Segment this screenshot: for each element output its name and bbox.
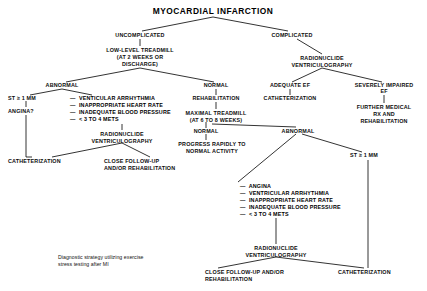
node-radionuclide-ventriculography-left-line2: VENTRICULOGRAPHY: [92, 138, 153, 145]
node-low-level-treadmill-line2: (AT 2 WEEKS OR: [117, 54, 163, 61]
node-catheterization-left: CATHETERIZATION: [8, 158, 61, 165]
node-catheterization-adequate-ef: CATHETERIZATION: [264, 95, 317, 102]
node-further-medical-line1: FURTHER MEDICAL: [357, 104, 412, 111]
node-close-followup-bottom-line1: CLOSE FOLLOW-UP AND/OR: [205, 269, 284, 276]
page-title: MYOCARDIAL INFARCTION: [153, 6, 274, 16]
node-low-level-treadmill-line1: LOW-LEVEL TREADMILL: [106, 47, 174, 54]
node-radionuclide-ventriculography-top-line2: VENTRICULOGRAPHY: [292, 62, 353, 69]
flowchart-diagram: MYOCARDIAL INFARCTION UNCOMPLICATED COMP…: [0, 0, 427, 291]
node-radionuclide-ventriculography-top-line1: RADIONUCLIDE: [300, 55, 344, 62]
node-close-followup-bottom-line2: REHABILITATION: [205, 276, 252, 283]
node-severely-impaired-ef-line2: EF: [380, 88, 387, 95]
node-progress-rapidly-line2: NORMAL ACTIVITY: [186, 148, 238, 155]
node-normal-middle: NORMAL: [204, 82, 229, 89]
node-st-elevation-right: ST ≥ 1 MM: [350, 152, 378, 159]
node-further-medical-line3: REHABILITATION: [360, 118, 407, 125]
node-maximal-treadmill-line1: MAXIMAL TREADMILL: [186, 110, 247, 117]
node-close-followup-left-line1: CLOSE FOLLOW-UP: [104, 158, 159, 165]
node-low-level-treadmill-line3: DISCHARGE): [122, 61, 158, 68]
node-radionuclide-ventriculography-left-line1: RADIONUCLIDE: [100, 131, 144, 138]
criteria-list-lower: — ANGINA — VENTRICULAR ARRHYTHMIA — INAP…: [240, 183, 341, 218]
node-complicated: COMPLICATED: [271, 32, 312, 39]
node-rehabilitation: REHABILITATION: [192, 95, 239, 102]
node-uncomplicated: UNCOMPLICATED: [115, 32, 164, 39]
node-close-followup-left-line2: AND/OR REHABILITATION: [104, 165, 175, 172]
node-radionuclide-ventriculography-bottom-line2: VENTRICULOGRAPHY: [246, 252, 307, 259]
node-adequate-ef: ADEQUATE EF: [270, 82, 310, 89]
node-catheterization-bottom: CATHETERIZATION: [338, 269, 391, 276]
node-maximal-treadmill-line2: (AT 6 TO 8 WEEKS): [190, 117, 243, 124]
node-further-medical-line2: RX AND: [373, 111, 395, 118]
node-angina-question: ANGINA?: [8, 108, 34, 115]
node-progress-rapidly-line1: PROGRESS RAPIDLY TO: [178, 141, 245, 148]
node-normal-lower: NORMAL: [194, 128, 219, 135]
criteria-list-upper: — VENTICULAR ARRHYTHMIA — INAPPROPRIATE …: [70, 95, 171, 123]
node-abnormal-right: ABNORMAL: [282, 128, 315, 135]
node-abnormal-left: ABNORMAL: [46, 82, 79, 89]
node-radionuclide-ventriculography-bottom-line1: RADIONUCLIDE: [254, 245, 298, 252]
figure-caption-line2: stress testing after MI: [58, 261, 109, 268]
node-st-elevation-left: ST ≥ 1 MM: [8, 95, 36, 102]
